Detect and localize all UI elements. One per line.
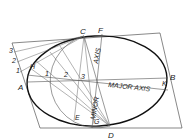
label-F: F xyxy=(98,26,104,35)
label-E: E xyxy=(75,114,80,121)
label-K: K xyxy=(162,80,167,87)
ray-line xyxy=(60,46,110,126)
label-axis-3: 3 xyxy=(81,73,85,80)
label-B: B xyxy=(170,73,176,82)
label-div-3: 3 xyxy=(9,47,13,54)
ellipse-construction-diagram: C F A B D E G H K 3 2 1 1 2 3 MAJOR AXIS… xyxy=(0,0,186,140)
label-axis-2: 2 xyxy=(63,71,68,78)
label-axis-1: 1 xyxy=(45,70,49,77)
label-major-axis: MAJOR AXIS xyxy=(108,81,151,92)
label-div-1: 1 xyxy=(16,67,20,74)
label-D: D xyxy=(108,131,114,140)
label-H: H xyxy=(30,63,36,70)
label-axis: AXIS xyxy=(92,47,102,65)
label-A: A xyxy=(17,83,23,92)
label-div-2: 2 xyxy=(11,57,16,64)
label-minor: MINOR xyxy=(89,96,100,120)
label-C: C xyxy=(80,27,86,36)
